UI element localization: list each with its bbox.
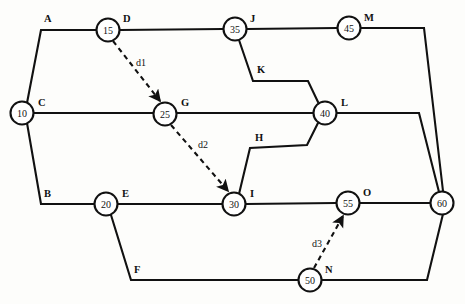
activity-label-l: L [341, 97, 348, 108]
activity-label-f: F [134, 264, 140, 275]
network-diagram: 1015202530354045505560 ABCDEFGHIJKLMNOd1… [0, 0, 465, 304]
event-node-10[interactable]: 10 [11, 102, 34, 125]
activity-edge-k [239, 40, 318, 102]
event-node-35[interactable]: 35 [224, 18, 247, 41]
activity-label-j: J [250, 13, 255, 24]
event-node-label-20: 20 [101, 199, 111, 210]
activity-edge-n [322, 214, 443, 280]
activity-label-h: H [255, 132, 263, 143]
event-node-label-50: 50 [305, 275, 315, 286]
event-node-label-45: 45 [344, 23, 354, 34]
activity-label-g: G [181, 97, 189, 108]
activity-edge-i [246, 203, 336, 204]
event-node-15[interactable]: 15 [97, 19, 120, 42]
event-node-label-15: 15 [103, 25, 113, 36]
activity-label-c: C [38, 97, 46, 108]
activity-label-a: A [44, 13, 52, 24]
event-node-40[interactable]: 40 [314, 102, 337, 125]
activity-label-b: B [44, 188, 51, 199]
dummy-activity-edge-d2 [171, 125, 228, 191]
dummy-activity-label-d3: d3 [312, 238, 322, 249]
activity-label-n: N [325, 264, 333, 275]
dummy-activity-edges-group [113, 41, 343, 268]
activity-label-e: E [122, 188, 129, 199]
event-nodes-group: 1015202530354045505560 [11, 17, 454, 292]
activity-edge-b [27, 123, 94, 204]
network-diagram-canvas: 1015202530354045505560 ABCDEFGHIJKLMNOd1… [0, 0, 465, 304]
event-node-45[interactable]: 45 [338, 17, 361, 40]
event-node-55[interactable]: 55 [337, 192, 360, 215]
activity-edge-a [27, 30, 96, 103]
activity-labels-group: ABCDEFGHIJKLMNOd1d2d3 [38, 12, 374, 275]
event-node-label-35: 35 [230, 24, 240, 35]
event-node-30[interactable]: 30 [223, 193, 246, 216]
event-node-20[interactable]: 20 [95, 193, 118, 216]
activity-label-i: I [250, 188, 254, 199]
activity-label-k: K [257, 64, 266, 75]
dummy-activity-label-d1: d1 [136, 57, 146, 68]
dummy-activity-label-d2: d2 [198, 139, 208, 150]
activity-edge-h [239, 123, 318, 194]
activity-edge-l [337, 113, 439, 192]
event-node-label-30: 30 [229, 199, 239, 210]
event-node-label-60: 60 [437, 198, 447, 209]
activity-edge-m [361, 28, 443, 191]
dummy-activity-edge-d1 [113, 41, 160, 101]
event-node-label-25: 25 [160, 109, 170, 120]
activity-edge-d [120, 29, 223, 30]
event-node-25[interactable]: 25 [154, 103, 177, 126]
event-node-60[interactable]: 60 [431, 192, 454, 215]
activity-label-d: D [123, 13, 131, 24]
event-node-label-40: 40 [320, 108, 330, 119]
event-node-50[interactable]: 50 [299, 269, 322, 292]
event-node-label-10: 10 [17, 108, 27, 119]
activity-label-m: M [364, 12, 374, 23]
activity-edge-j [247, 28, 337, 29]
event-node-label-55: 55 [343, 198, 353, 209]
activity-edges-group [27, 28, 443, 280]
activity-label-o: O [363, 187, 371, 198]
